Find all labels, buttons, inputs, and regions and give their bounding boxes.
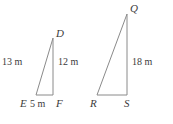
segment-DE	[36, 38, 53, 95]
vertex-label-S: S	[124, 98, 130, 109]
side-length-DE: 13 m	[2, 57, 22, 67]
triangle-QRS-shape	[97, 14, 127, 95]
vertex-label-F: F	[56, 98, 63, 109]
segment-QR	[97, 14, 127, 95]
side-length-EF: 5 m	[30, 99, 45, 109]
geometry-figure: D E F 13 m 12 m 5 m Q R S 18 m	[0, 0, 173, 124]
vertex-label-R: R	[90, 98, 97, 109]
triangle-DEF-shape	[36, 38, 53, 95]
side-length-QS: 18 m	[132, 57, 152, 67]
vertex-label-Q: Q	[130, 3, 138, 14]
vertex-label-D: D	[56, 28, 64, 39]
vertex-label-E: E	[20, 98, 27, 109]
side-length-DF: 12 m	[58, 57, 78, 67]
